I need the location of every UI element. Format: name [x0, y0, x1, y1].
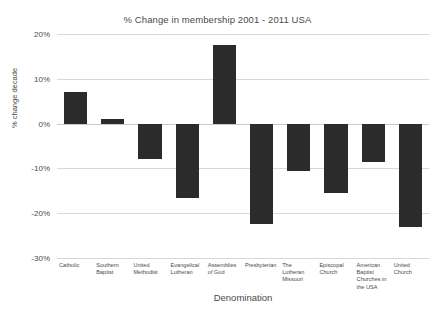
chart-title: % Change in membership 2001 - 2011 USA — [0, 14, 435, 25]
bar — [362, 124, 385, 162]
bar — [138, 124, 161, 160]
x-axis-ticks: CatholicSouthern BaptistUnited Methodist… — [57, 262, 429, 314]
x-axis-tick-label: Catholic — [59, 262, 92, 269]
y-axis-tick-label: -30% — [12, 254, 50, 263]
bar-series — [57, 34, 429, 258]
bar — [213, 45, 236, 123]
y-axis-tick-label: 0% — [12, 119, 50, 128]
x-axis-tick-label: United Methodist — [133, 262, 166, 276]
bar — [176, 124, 199, 198]
x-axis-tick-label: American Baptist Churches in the USA — [357, 262, 390, 291]
gridline — [57, 258, 429, 259]
x-axis-tick-label: United Church — [394, 262, 427, 276]
x-axis-tick-label: Assemblies of God — [208, 262, 241, 276]
bar — [287, 124, 310, 171]
y-axis-tick-label: -20% — [12, 209, 50, 218]
bar — [250, 124, 273, 225]
x-axis-title: Denomination — [57, 292, 429, 303]
y-axis-tick-label: 20% — [12, 30, 50, 39]
bar — [324, 124, 347, 193]
x-axis-tick-label: Evangelical Lutheran — [171, 262, 204, 276]
x-axis-tick-label: Presbyterian — [245, 262, 278, 269]
plot-area — [57, 34, 429, 258]
x-axis-tick-label: Southern Baptist — [96, 262, 129, 276]
y-axis-tick-label: -10% — [12, 164, 50, 173]
x-axis-tick-label: The Lutheran Missouri — [282, 262, 315, 284]
bar — [101, 119, 124, 123]
x-axis-tick-label: Episcopal Church — [319, 262, 352, 276]
bar — [399, 124, 422, 227]
bar-chart: % Change in membership 2001 - 2011 USA %… — [0, 0, 435, 323]
bar — [64, 92, 87, 123]
y-axis-tick-label: 10% — [12, 74, 50, 83]
